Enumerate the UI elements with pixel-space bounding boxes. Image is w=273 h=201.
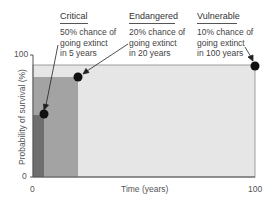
y-tick-label-0: 0 — [22, 171, 27, 181]
critical-desc-line-2: going extinct — [60, 38, 116, 49]
y-tick-label-100: 100 — [14, 49, 28, 59]
critical-annotation: Critical 50% chance of going extinct in … — [60, 11, 116, 59]
endangered-rule — [129, 23, 175, 24]
endangered-annotation: Endangered 20% chance of going extinct i… — [129, 11, 185, 59]
x-tick-label-0: 0 — [30, 184, 35, 194]
vulnerable-desc-line-2: going extinct — [197, 38, 253, 49]
endangered-desc-line-1: 20% chance of — [129, 27, 185, 38]
vulnerable-annotation: Vulnerable 10% chance of going extinct i… — [197, 11, 253, 59]
endangered-marker — [74, 73, 83, 82]
vulnerable-desc-line-1: 10% chance of — [197, 27, 253, 38]
vulnerable-desc-line-3: in 100 years — [197, 48, 253, 59]
vulnerable-title: Vulnerable — [197, 11, 253, 21]
critical-title: Critical — [60, 11, 116, 21]
critical-desc-line-1: 50% chance of — [60, 27, 116, 38]
vulnerable-rule — [197, 23, 237, 24]
y-axis-label: Probability of survival (%) — [17, 69, 27, 165]
critical-desc-line-3: in 5 years — [60, 48, 116, 59]
critical-rule — [60, 23, 88, 24]
critical-marker — [40, 110, 49, 119]
x-tick-label-100: 100 — [248, 184, 262, 194]
endangered-title: Endangered — [129, 11, 185, 21]
x-axis-label: Time (years) — [121, 184, 168, 194]
endangered-desc-line-2: going extinct — [129, 38, 185, 49]
critical-region — [33, 115, 44, 177]
vulnerable-marker — [251, 62, 260, 71]
endangered-desc-line-3: in 20 years — [129, 48, 185, 59]
